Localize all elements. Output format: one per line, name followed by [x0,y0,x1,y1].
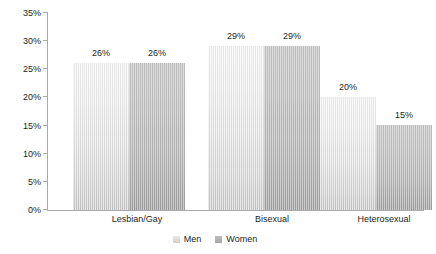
category-label-heterosexual: Heterosexual [264,214,436,224]
bar-women-bisexual[interactable]: 29% [264,46,320,210]
bar-men-lesbian-gay[interactable]: 26% [73,63,129,210]
bar-value-label: 29% [208,31,264,41]
bar-women-heterosexual[interactable]: 15% [376,125,432,210]
chart-legend: Men Women [0,234,430,244]
y-tick-label: 35% [0,8,41,18]
bar-men-heterosexual[interactable]: 20% [320,97,376,210]
plot-area: 26% 26% 29% 29% 20% 15% [48,12,424,210]
bar-value-label: 26% [73,48,129,58]
bar-value-label: 29% [264,31,320,41]
y-tick-label: 10% [0,149,41,159]
legend-swatch-icon [215,236,222,243]
bar-value-label: 20% [320,82,376,92]
bar-group-heterosexual: 20% 15% [320,12,432,210]
y-tick-label: 25% [0,64,41,74]
bar-value-label: 15% [376,110,432,120]
legend-item-men[interactable]: Men [173,234,202,244]
legend-label: Men [184,234,202,244]
bar-men-bisexual[interactable]: 29% [208,46,264,210]
bar-group-lesbian-gay: 26% 26% [73,12,185,210]
bar-value-label: 26% [129,48,185,58]
x-axis-line [47,210,424,211]
y-tick-label: 15% [0,121,41,131]
bar-women-lesbian-gay[interactable]: 26% [129,63,185,210]
legend-swatch-icon [173,236,180,243]
legend-label: Women [226,234,257,244]
y-tick-label: 30% [0,36,41,46]
y-tick-label: 20% [0,92,41,102]
bar-group-bisexual: 29% 29% [208,12,320,210]
legend-item-women[interactable]: Women [215,234,257,244]
y-tick-label: 5% [0,177,41,187]
